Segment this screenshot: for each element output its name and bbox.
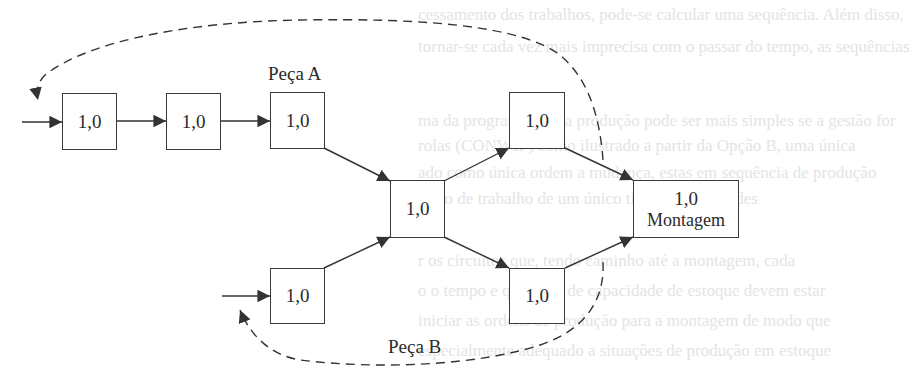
process-box-merge: 1,0 xyxy=(390,180,445,238)
arrow-merge-topright xyxy=(444,148,509,181)
assembly-box: 1,0 Montagem xyxy=(633,180,739,238)
box-value: 1,0 xyxy=(525,285,549,307)
box-value: 1,0 xyxy=(78,111,102,133)
process-box-bottom-right: 1,0 xyxy=(509,268,565,324)
process-box-b1: 1,0 xyxy=(270,268,325,324)
assembly-label: Montagem xyxy=(647,210,725,230)
box-value: 1,0 xyxy=(406,198,430,220)
arrow-topright-assembly xyxy=(565,148,633,180)
arrow-b1-merge xyxy=(324,237,390,268)
box-value: 1,0 xyxy=(525,110,549,132)
box-value: 1,0 xyxy=(674,188,698,210)
process-box-a2: 1,0 xyxy=(166,93,221,150)
arrow-merge-bottomright xyxy=(444,237,509,268)
part-b-label: Peça B xyxy=(388,336,441,358)
box-value: 1,0 xyxy=(286,110,310,132)
arrow-bottomright-assembly xyxy=(565,237,633,268)
arrow-a3-merge xyxy=(324,148,390,181)
box-value: 1,0 xyxy=(286,285,310,307)
process-box-a1: 1,0 xyxy=(62,93,117,150)
process-box-a3: 1,0 xyxy=(270,92,325,149)
process-box-top-right: 1,0 xyxy=(509,92,565,149)
box-value: 1,0 xyxy=(182,111,206,133)
part-a-label: Peça A xyxy=(268,63,321,85)
